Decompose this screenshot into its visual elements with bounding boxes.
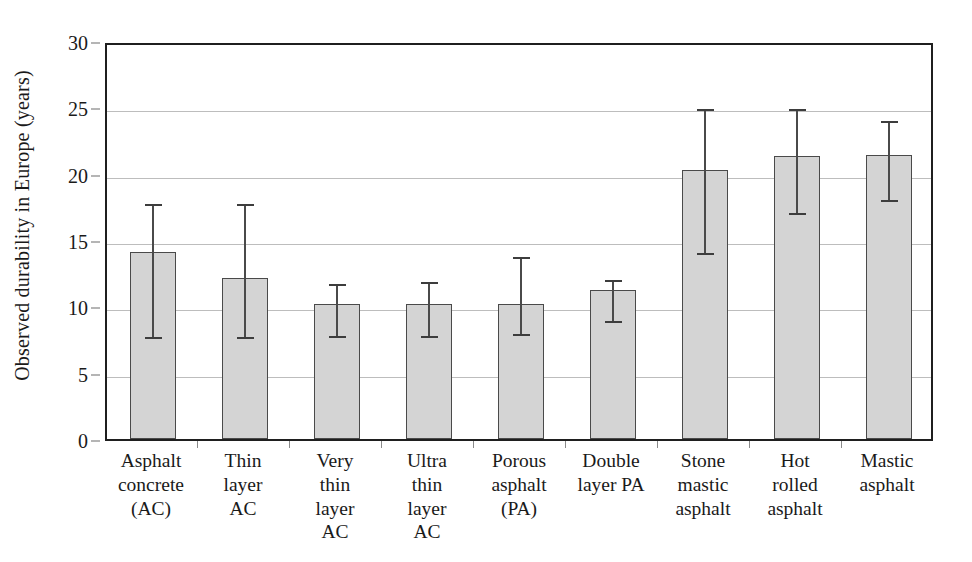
error-bar-line bbox=[520, 257, 522, 334]
y-tick-mark bbox=[91, 43, 100, 44]
bar-group[interactable] bbox=[199, 45, 291, 439]
x-axis-category-line: (AC) bbox=[105, 497, 197, 521]
x-axis-category-line: Stone bbox=[657, 449, 749, 473]
x-axis-category-line: thin bbox=[289, 473, 381, 497]
y-tick-label: 20 bbox=[68, 166, 88, 186]
error-bar-cap-lower bbox=[513, 334, 530, 336]
error-bar-cap-lower bbox=[237, 337, 254, 339]
bar-group[interactable] bbox=[567, 45, 659, 439]
x-axis-category-line: AC bbox=[381, 520, 473, 544]
x-axis-category-line: asphalt bbox=[473, 473, 565, 497]
error-bar-cap-upper bbox=[697, 109, 714, 111]
x-tick-mark bbox=[473, 441, 474, 448]
y-tick-label: 5 bbox=[78, 365, 88, 385]
y-tick-mark bbox=[91, 242, 100, 243]
error-bar-cap-lower bbox=[329, 336, 346, 338]
x-tick-mark bbox=[657, 441, 658, 448]
error-bar-cap-lower bbox=[789, 213, 806, 215]
y-tick-mark bbox=[91, 175, 100, 176]
x-axis-category-line: Asphalt bbox=[105, 449, 197, 473]
x-axis-category-line: layer bbox=[197, 473, 289, 497]
error-bar-line bbox=[244, 204, 246, 337]
y-axis-title-text: Observed durability in Europe (years) bbox=[11, 70, 34, 381]
x-axis-category-line: asphalt bbox=[657, 497, 749, 521]
x-axis-category-line: Double bbox=[565, 449, 657, 473]
x-axis-ticks bbox=[105, 441, 933, 449]
error-bar-cap-upper bbox=[421, 282, 438, 284]
error-bar-cap-lower bbox=[697, 253, 714, 255]
y-tick-mark bbox=[91, 109, 100, 110]
bar-group[interactable] bbox=[383, 45, 475, 439]
error-bar-cap-upper bbox=[789, 109, 806, 111]
bar-group[interactable] bbox=[751, 45, 843, 439]
x-axis-category-line: AC bbox=[197, 497, 289, 521]
bar-group[interactable] bbox=[843, 45, 935, 439]
x-axis-category-line: layer bbox=[381, 497, 473, 521]
y-axis-title: Observed durability in Europe (years) bbox=[0, 0, 44, 450]
error-bar-cap-upper bbox=[237, 204, 254, 206]
x-axis-category-label: Hotrolledasphalt bbox=[749, 449, 841, 520]
bar-series bbox=[107, 45, 931, 439]
x-tick-mark bbox=[841, 441, 842, 448]
y-tick-label: 0 bbox=[78, 431, 88, 451]
x-axis-category-line: thin bbox=[381, 473, 473, 497]
x-axis-category-line: Mastic bbox=[841, 449, 933, 473]
x-axis-category-line: asphalt bbox=[749, 497, 841, 521]
x-axis-category-line: Hot bbox=[749, 449, 841, 473]
x-axis-category-label: Stonemasticasphalt bbox=[657, 449, 749, 520]
error-bar-cap-upper bbox=[513, 257, 530, 259]
x-axis-category-line: asphalt bbox=[841, 473, 933, 497]
x-axis-labels: Asphaltconcrete(AC)ThinlayerACVerythinla… bbox=[105, 449, 933, 559]
x-axis-category-label: UltrathinlayerAC bbox=[381, 449, 473, 544]
error-bar-line bbox=[612, 280, 614, 321]
error-bar-cap-upper bbox=[145, 204, 162, 206]
x-axis-category-line: (PA) bbox=[473, 497, 565, 521]
bar-group[interactable] bbox=[291, 45, 383, 439]
x-axis-category-line: Porous bbox=[473, 449, 565, 473]
y-axis-ticks: 051015202530 bbox=[44, 0, 100, 562]
error-bar-line bbox=[888, 121, 890, 201]
x-axis-category-line: Thin bbox=[197, 449, 289, 473]
x-axis-category-label: Masticasphalt bbox=[841, 449, 933, 497]
error-bar-cap-lower bbox=[421, 336, 438, 338]
error-bar-line bbox=[336, 284, 338, 336]
y-tick-mark bbox=[91, 308, 100, 309]
error-bar-cap-upper bbox=[881, 121, 898, 123]
x-axis-category-label: Asphaltconcrete(AC) bbox=[105, 449, 197, 520]
y-tick-label: 30 bbox=[68, 33, 88, 53]
error-bar-line bbox=[704, 109, 706, 254]
error-bar-cap-upper bbox=[329, 284, 346, 286]
x-axis-category-line: AC bbox=[289, 520, 381, 544]
bar-chart-figure: Observed durability in Europe (years) 05… bbox=[0, 0, 972, 562]
x-axis-category-line: concrete bbox=[105, 473, 197, 497]
x-tick-mark bbox=[197, 441, 198, 448]
error-bar-cap-lower bbox=[881, 200, 898, 202]
error-bar-cap-lower bbox=[145, 337, 162, 339]
x-axis-category-line: Ultra bbox=[381, 449, 473, 473]
error-bar-cap-upper bbox=[605, 280, 622, 282]
plot-area bbox=[105, 43, 933, 441]
bar-group[interactable] bbox=[659, 45, 751, 439]
x-axis-category-line: Very bbox=[289, 449, 381, 473]
y-tick-label: 10 bbox=[68, 298, 88, 318]
x-tick-mark bbox=[565, 441, 566, 448]
x-axis-category-label: Porousasphalt(PA) bbox=[473, 449, 565, 520]
x-axis-category-line: rolled bbox=[749, 473, 841, 497]
x-axis-category-label: ThinlayerAC bbox=[197, 449, 289, 520]
bar-group[interactable] bbox=[475, 45, 567, 439]
x-tick-mark bbox=[289, 441, 290, 448]
x-tick-mark bbox=[749, 441, 750, 448]
x-axis-category-line: mastic bbox=[657, 473, 749, 497]
x-tick-mark bbox=[381, 441, 382, 448]
y-tick-label: 15 bbox=[68, 232, 88, 252]
x-axis-category-label: VerythinlayerAC bbox=[289, 449, 381, 544]
x-axis-category-label: Doublelayer PA bbox=[565, 449, 657, 497]
error-bar-cap-lower bbox=[605, 321, 622, 323]
y-tick-mark bbox=[91, 441, 100, 442]
error-bar-line bbox=[152, 204, 154, 337]
y-tick-label: 25 bbox=[68, 99, 88, 119]
y-tick-mark bbox=[91, 374, 100, 375]
bar-group[interactable] bbox=[107, 45, 199, 439]
x-axis-category-line: layer PA bbox=[565, 473, 657, 497]
error-bar-line bbox=[428, 282, 430, 335]
